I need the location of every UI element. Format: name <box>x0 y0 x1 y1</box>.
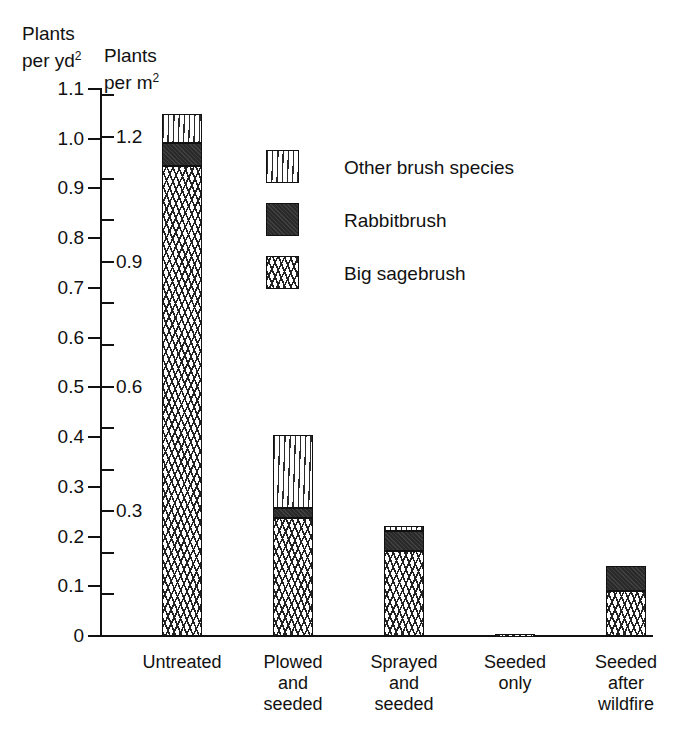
y-tick-label-left: 0.3 <box>14 477 84 496</box>
y-axis-title-right: Plants per m2 <box>104 44 159 94</box>
bar-segment-rabbitbrush[interactable] <box>162 143 202 166</box>
x-axis-label-line: Seeded <box>551 652 673 673</box>
bar-segment-big-sagebrush[interactable] <box>162 166 202 636</box>
y-tick-right-minor <box>101 427 114 429</box>
y-tick-label-left: 0.9 <box>14 178 84 197</box>
y-tick-label-left: 0.1 <box>14 576 84 595</box>
bar-segment-rabbitbrush[interactable] <box>273 508 313 518</box>
bar-seeded-after-wildfire[interactable] <box>606 88 646 636</box>
y-tick-label-right: 1.2 <box>116 127 142 146</box>
legend-label-rabbitbrush: Rabbitbrush <box>344 211 446 230</box>
y-tick-left <box>88 536 101 538</box>
y-tick-left <box>88 138 101 140</box>
y-tick-label-left: 0.2 <box>14 527 84 546</box>
y-tick-label-left: 1.0 <box>14 129 84 148</box>
bar-segment-rabbitbrush[interactable] <box>384 531 424 551</box>
bar-segment-rabbitbrush[interactable] <box>606 566 646 591</box>
bar-segment-big-sagebrush[interactable] <box>606 591 646 636</box>
y-axis-title-left: Plants per yd2 <box>22 22 82 72</box>
bar-segment-other-brush-species[interactable] <box>273 435 313 508</box>
bar-segment-other-brush-species[interactable] <box>162 114 202 143</box>
x-axis-label-seeded-after-wildfire: Seededafterwildfire <box>551 652 673 715</box>
y-tick-left <box>88 386 101 388</box>
legend-swatch-rabbitbrush <box>266 203 299 236</box>
y-tick-label-right: 0.6 <box>116 377 142 396</box>
bar-untreated[interactable] <box>162 88 202 636</box>
y-tick-label-left: 1.1 <box>14 79 84 98</box>
y-tick-label-right: 0.3 <box>116 501 142 520</box>
y-tick-label-left: 0.7 <box>14 278 84 297</box>
y-tick-left <box>88 287 101 289</box>
y-tick-right-minor <box>101 469 114 471</box>
y-tick-right-minor <box>101 219 114 221</box>
x-axis-label-line: seeded <box>329 694 479 715</box>
y-tick-right <box>101 261 114 263</box>
y-tick-label-left: 0.8 <box>14 228 84 247</box>
y-tick-label-left: 0 <box>14 626 84 645</box>
y-tick-right-minor <box>101 344 114 346</box>
y-tick-left <box>88 237 101 239</box>
y-tick-left <box>88 585 101 587</box>
y-tick-right-minor <box>101 552 114 554</box>
y-tick-left <box>88 337 101 339</box>
y-tick-left <box>88 88 101 90</box>
chart-canvas: Plants per yd2 Plants per m2 00.10.20.30… <box>0 0 673 741</box>
bar-segment-big-sagebrush[interactable] <box>384 551 424 636</box>
y-tick-left <box>88 486 101 488</box>
y-tick-label-left: 0.4 <box>14 427 84 446</box>
bar-segment-big-sagebrush[interactable] <box>273 518 313 636</box>
legend-label-other-brush-species: Other brush species <box>344 158 514 177</box>
y-tick-right-minor <box>101 178 114 180</box>
legend-swatch-big-sagebrush <box>266 256 299 289</box>
y-tick-right <box>101 510 114 512</box>
bar-segment-big-sagebrush[interactable] <box>495 634 535 637</box>
x-axis-label-line: after <box>551 673 673 694</box>
y-tick-right-minor <box>101 302 114 304</box>
y-axis-line <box>100 88 102 637</box>
y-tick-label-right: 0.9 <box>116 252 142 271</box>
y-tick-left <box>88 635 101 637</box>
y-tick-label-left: 0.5 <box>14 377 84 396</box>
y-tick-right <box>101 386 114 388</box>
y-tick-right-minor <box>101 94 114 96</box>
y-tick-left <box>88 436 101 438</box>
bar-segment-other-brush-species[interactable] <box>384 526 424 531</box>
legend-swatch-other-brush-species <box>266 150 299 183</box>
x-axis-label-line: wildfire <box>551 694 673 715</box>
y-tick-left <box>88 187 101 189</box>
y-tick-right <box>101 136 114 138</box>
y-tick-label-left: 0.6 <box>14 328 84 347</box>
legend-label-big-sagebrush: Big sagebrush <box>344 264 465 283</box>
y-tick-right-minor <box>101 593 114 595</box>
